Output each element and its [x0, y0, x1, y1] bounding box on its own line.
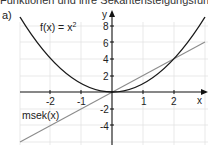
y-tick-label: 4 [103, 54, 109, 65]
msek-label: msek(x) [22, 109, 59, 121]
x-axis-arrow-icon [201, 89, 208, 95]
x-tick-label: -1 [77, 96, 86, 107]
y-axis-arrow-icon [109, 10, 115, 17]
y-tick-label: 2 [103, 71, 109, 82]
y-tick-label: 6 [103, 38, 109, 49]
y-axis-label: y [102, 9, 107, 20]
x-tick-label: -2 [46, 96, 55, 107]
y-tick-label: 8 [103, 21, 109, 32]
x-tick-label: 1 [141, 96, 147, 107]
y-tick-label: -4 [100, 121, 109, 132]
x-tick-label: 2 [171, 96, 177, 107]
x-axis-label: x [197, 95, 202, 106]
chart: -2 -1 1 2 x -4 -2 2 4 6 8 y f(x) = x2 ms… [0, 0, 208, 145]
y-tick-label: -2 [100, 104, 109, 115]
f-label: f(x) = x2 [40, 21, 76, 33]
